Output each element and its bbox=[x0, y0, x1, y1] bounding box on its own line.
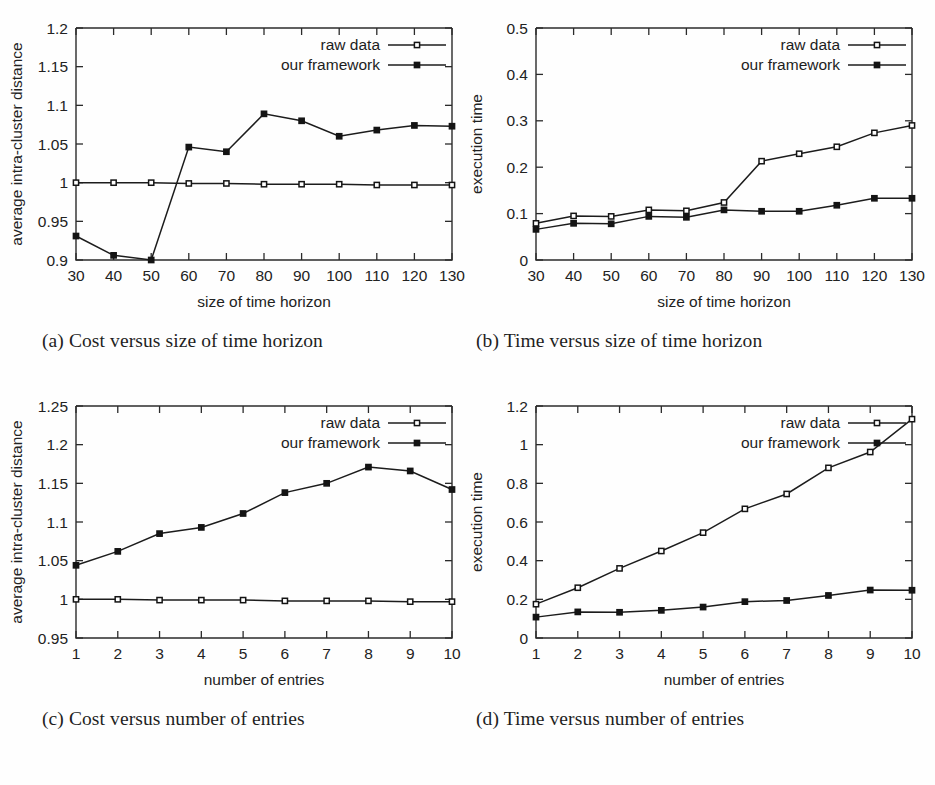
data-point-marker bbox=[834, 203, 839, 208]
series-our-framework bbox=[533, 587, 914, 619]
panel-d-caption: (d) Time versus number of entries bbox=[460, 708, 935, 730]
x-tick-label: 130 bbox=[899, 267, 925, 284]
x-tick-label: 7 bbox=[782, 645, 791, 662]
x-tick-label: 9 bbox=[406, 645, 415, 662]
panel-b-caption: (b) Time versus size of time horizon bbox=[460, 330, 935, 352]
data-point-marker bbox=[659, 548, 664, 553]
data-point-marker bbox=[571, 213, 576, 218]
data-point-marker bbox=[742, 506, 747, 511]
data-point-marker bbox=[533, 227, 538, 232]
data-point-marker bbox=[115, 597, 120, 602]
y-tick-label: 1.2 bbox=[506, 398, 528, 415]
data-point-marker bbox=[797, 151, 802, 156]
y-tick-label: 0.9 bbox=[46, 252, 68, 269]
legend-label-raw-data: raw data bbox=[781, 414, 841, 431]
data-point-marker bbox=[575, 609, 580, 614]
x-tick-label: 1 bbox=[72, 645, 81, 662]
data-point-marker bbox=[366, 598, 371, 603]
x-tick-label: 50 bbox=[143, 267, 161, 284]
data-point-marker bbox=[149, 180, 154, 185]
y-tick-label: 1 bbox=[59, 174, 68, 191]
data-point-marker bbox=[742, 599, 747, 604]
x-tick-label: 110 bbox=[824, 267, 849, 284]
data-point-marker bbox=[261, 182, 266, 187]
y-axis-title: execution time bbox=[468, 472, 485, 572]
chart-a: 0.90.9511.051.11.151.2304050607080901001… bbox=[0, 8, 467, 326]
plot-frame bbox=[536, 406, 912, 638]
x-tick-label: 110 bbox=[364, 267, 389, 284]
y-tick-label: 1.2 bbox=[46, 436, 68, 453]
panel-b: 00.10.20.30.40.5304050607080901001101201… bbox=[460, 0, 927, 392]
data-point-marker bbox=[186, 144, 191, 149]
data-point-marker bbox=[874, 440, 879, 445]
x-tick-label: 5 bbox=[699, 645, 708, 662]
data-point-marker bbox=[868, 449, 873, 454]
data-point-marker bbox=[571, 221, 576, 226]
x-tick-label: 120 bbox=[401, 267, 427, 284]
y-tick-label: 0.5 bbox=[506, 20, 528, 37]
data-point-marker bbox=[414, 42, 419, 47]
data-point-marker bbox=[874, 42, 879, 47]
data-point-marker bbox=[324, 481, 329, 486]
x-tick-label: 5 bbox=[239, 645, 248, 662]
y-axis-title: average intra-cluster distance bbox=[8, 420, 25, 623]
x-tick-label: 90 bbox=[293, 267, 311, 284]
legend-label-our-framework: our framework bbox=[281, 434, 380, 451]
data-point-marker bbox=[701, 530, 706, 535]
data-point-marker bbox=[157, 531, 162, 536]
data-point-marker bbox=[784, 598, 789, 603]
y-axis: 00.10.20.30.40.5 bbox=[506, 20, 912, 269]
panel-c-caption: (c) Cost versus number of entries bbox=[0, 708, 509, 730]
x-tick-label: 80 bbox=[255, 267, 273, 284]
series-raw-data bbox=[73, 597, 454, 605]
y-tick-label: 0.2 bbox=[506, 591, 528, 608]
y-tick-label: 0.3 bbox=[506, 112, 528, 129]
x-axis: 12345678910 bbox=[532, 406, 921, 662]
data-point-marker bbox=[73, 180, 78, 185]
plot-frame bbox=[76, 28, 452, 260]
x-tick-label: 70 bbox=[218, 267, 236, 284]
data-point-marker bbox=[659, 608, 664, 613]
y-tick-label: 0.4 bbox=[506, 552, 528, 569]
data-point-marker bbox=[115, 549, 120, 554]
plot-frame bbox=[536, 28, 912, 260]
data-point-marker bbox=[337, 182, 342, 187]
x-tick-label: 7 bbox=[322, 645, 331, 662]
x-tick-label: 60 bbox=[180, 267, 198, 284]
data-point-marker bbox=[337, 134, 342, 139]
y-tick-label: 0.1 bbox=[506, 205, 528, 222]
data-point-marker bbox=[759, 159, 764, 164]
y-axis: 00.20.40.60.811.2 bbox=[506, 398, 912, 647]
y-axis-title: average intra-cluster distance bbox=[8, 42, 25, 245]
data-point-marker bbox=[575, 585, 580, 590]
data-point-marker bbox=[199, 525, 204, 530]
x-tick-label: 30 bbox=[527, 267, 545, 284]
x-tick-label: 60 bbox=[640, 267, 658, 284]
data-point-marker bbox=[909, 588, 914, 593]
y-tick-label: 1.15 bbox=[38, 475, 68, 492]
panel-grid: 0.90.9511.051.11.151.2304050607080901001… bbox=[0, 0, 935, 785]
y-tick-label: 1.2 bbox=[46, 20, 68, 37]
y-tick-label: 0.6 bbox=[506, 514, 528, 531]
data-point-marker bbox=[684, 215, 689, 220]
y-tick-label: 0 bbox=[519, 252, 528, 269]
data-point-marker bbox=[909, 123, 914, 128]
chart-svg-c: 0.9511.051.11.151.21.2512345678910number… bbox=[0, 386, 467, 704]
data-point-marker bbox=[111, 253, 116, 258]
x-tick-label: 8 bbox=[364, 645, 373, 662]
x-tick-label: 3 bbox=[615, 645, 624, 662]
legend-label-raw-data: raw data bbox=[321, 414, 381, 431]
data-point-marker bbox=[414, 62, 419, 67]
x-tick-label: 8 bbox=[824, 645, 833, 662]
y-axis-title: execution time bbox=[468, 94, 485, 194]
data-point-marker bbox=[872, 196, 877, 201]
legend: raw dataour framework bbox=[281, 414, 446, 451]
chart-b: 00.10.20.30.40.5304050607080901001101201… bbox=[460, 8, 927, 326]
data-point-marker bbox=[374, 182, 379, 187]
y-axis: 0.9511.051.11.151.21.25 bbox=[38, 398, 452, 647]
legend: raw dataour framework bbox=[281, 36, 446, 73]
x-axis: 30405060708090100110120130 bbox=[67, 28, 465, 284]
data-point-marker bbox=[412, 123, 417, 128]
x-tick-label: 10 bbox=[903, 645, 921, 662]
x-tick-label: 10 bbox=[443, 645, 461, 662]
